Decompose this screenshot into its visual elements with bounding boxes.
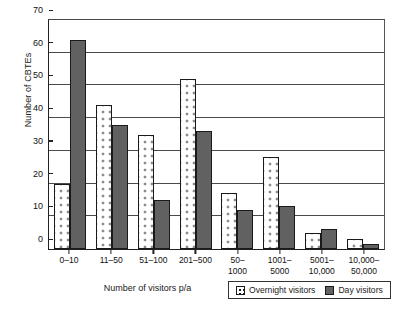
y-tick-label: 50 bbox=[33, 70, 49, 80]
legend-item: Overnight visitors bbox=[236, 285, 315, 295]
bar-group bbox=[300, 20, 342, 249]
x-tick-line: 10,000– bbox=[343, 255, 385, 266]
y-tick-label: 20 bbox=[33, 169, 49, 179]
x-tick-label: 10,000–50,000 bbox=[343, 250, 385, 282]
y-tick-label: 30 bbox=[33, 136, 49, 146]
legend-label: Overnight visitors bbox=[249, 285, 315, 295]
bar-group bbox=[49, 20, 91, 249]
x-tick-label: 1001–5000 bbox=[259, 250, 301, 282]
y-tick-label: 70 bbox=[33, 5, 49, 15]
bar-overnight bbox=[305, 233, 321, 249]
x-tick-label: 51–100 bbox=[132, 250, 174, 282]
bar-overnight bbox=[347, 239, 363, 249]
bar-group bbox=[133, 20, 175, 249]
bar-group bbox=[217, 20, 259, 249]
x-tick-mark bbox=[111, 250, 112, 254]
y-tick-mark bbox=[49, 10, 53, 11]
bar-overnight bbox=[221, 193, 237, 249]
bar-overnight bbox=[263, 157, 279, 249]
bar-group bbox=[258, 20, 300, 249]
x-tick-line: 11–50 bbox=[90, 255, 132, 266]
bar-chart-figure: Number of CBTEs 010203040506070 0–1011–5… bbox=[0, 0, 402, 310]
x-tick-line: 5000 bbox=[259, 266, 301, 277]
x-axis-title: Number of visitors p/a bbox=[40, 283, 255, 293]
legend-label: Day visitors bbox=[338, 285, 382, 295]
y-tick-label: 60 bbox=[33, 38, 49, 48]
x-axis-ticks: 0–1011–5051–100201–50050–10001001–500050… bbox=[48, 250, 385, 282]
x-tick-label: 0–10 bbox=[48, 250, 90, 282]
y-tick-label: 10 bbox=[33, 201, 49, 211]
y-axis-title: Number of CBTEs bbox=[23, 10, 33, 170]
x-tick-line: 0–10 bbox=[48, 255, 90, 266]
chart-legend: Overnight visitorsDay visitors bbox=[228, 281, 391, 299]
bar-overnight bbox=[138, 135, 154, 250]
bar-day bbox=[237, 210, 253, 249]
bar-day bbox=[279, 206, 295, 249]
bar-day bbox=[363, 244, 379, 249]
legend-swatch-day bbox=[325, 286, 334, 295]
x-tick-mark bbox=[279, 250, 280, 254]
bar-day bbox=[112, 125, 128, 249]
y-tick-label: 40 bbox=[33, 103, 49, 113]
x-tick-mark bbox=[153, 250, 154, 254]
x-tick-line: 50,000 bbox=[343, 266, 385, 277]
plot-area: 010203040506070 bbox=[48, 19, 385, 250]
bar-group bbox=[175, 20, 217, 249]
x-tick-label: 11–50 bbox=[90, 250, 132, 282]
bar-group bbox=[342, 20, 384, 249]
x-tick-label: 201–500 bbox=[174, 250, 216, 282]
legend-item: Day visitors bbox=[325, 285, 382, 295]
x-tick-mark bbox=[237, 250, 238, 254]
bar-day bbox=[321, 229, 337, 249]
x-tick-line: 201–500 bbox=[174, 255, 216, 266]
bar-series-container bbox=[49, 20, 384, 249]
bar-group bbox=[91, 20, 133, 249]
bar-day bbox=[154, 200, 170, 249]
x-tick-label: 50–1000 bbox=[217, 250, 259, 282]
legend-swatch-overnight bbox=[236, 286, 245, 295]
x-tick-mark bbox=[68, 250, 69, 254]
bar-overnight bbox=[180, 79, 196, 249]
x-tick-mark bbox=[195, 250, 196, 254]
x-tick-label: 5001–10,000 bbox=[301, 250, 343, 282]
y-tick-label: 0 bbox=[38, 234, 49, 244]
x-tick-line: 5001– bbox=[301, 255, 343, 266]
x-tick-line: 1000 bbox=[217, 266, 259, 277]
x-tick-line: 51–100 bbox=[132, 255, 174, 266]
bar-day bbox=[196, 131, 212, 249]
x-tick-line: 50– bbox=[217, 255, 259, 266]
x-tick-mark bbox=[363, 250, 364, 254]
bar-day bbox=[70, 40, 86, 249]
bar-overnight bbox=[54, 184, 70, 249]
bar-overnight bbox=[96, 105, 112, 249]
x-tick-line: 1001– bbox=[259, 255, 301, 266]
x-tick-line: 10,000 bbox=[301, 266, 343, 277]
x-tick-mark bbox=[321, 250, 322, 254]
